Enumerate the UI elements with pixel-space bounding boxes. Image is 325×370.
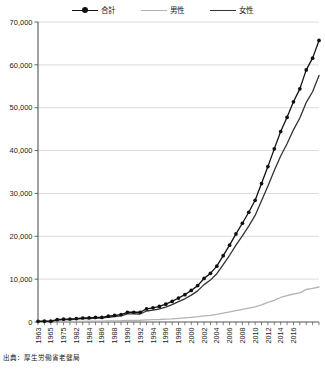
x-axis-tick-label: 2014 bbox=[276, 328, 285, 344]
series-marker-total bbox=[253, 198, 257, 202]
chart-container: 合計 男性 女性 010,00020,00030,00040,00050,000… bbox=[0, 0, 325, 370]
series-marker-total bbox=[157, 305, 161, 309]
x-axis-tick-label: 2004 bbox=[212, 328, 221, 344]
series-marker-total bbox=[132, 310, 136, 314]
y-axis-tick-label: 50,000 bbox=[10, 103, 33, 112]
series-marker-total bbox=[228, 243, 232, 247]
series-marker-total bbox=[74, 317, 78, 321]
series-marker-total bbox=[241, 221, 245, 225]
series-marker-total bbox=[113, 313, 117, 317]
source-note: 出典：厚生労働省老健局 bbox=[3, 352, 80, 362]
series-marker-total bbox=[215, 264, 219, 268]
series-marker-total bbox=[311, 56, 315, 60]
x-axis-tick-label: 2006 bbox=[225, 328, 234, 344]
series-marker-total bbox=[62, 317, 66, 321]
y-axis-tick-label: 70,000 bbox=[10, 18, 33, 27]
x-axis-tick-label: 1994 bbox=[149, 328, 158, 344]
series-marker-total bbox=[234, 232, 238, 236]
series-marker-total bbox=[247, 210, 251, 214]
series-marker-total bbox=[170, 300, 174, 304]
x-axis-tick-label: 1982 bbox=[72, 328, 81, 344]
series-marker-total bbox=[55, 318, 59, 322]
series-marker-total bbox=[221, 254, 225, 258]
series-marker-total bbox=[183, 293, 187, 297]
y-axis-tick-label: 20,000 bbox=[10, 232, 33, 241]
series-marker-total bbox=[260, 182, 264, 186]
series-marker-total bbox=[196, 284, 200, 288]
y-axis-tick-label: 0 bbox=[28, 318, 32, 327]
x-axis-tick-label: 2002 bbox=[200, 328, 209, 344]
series-marker-total bbox=[317, 39, 321, 43]
x-axis-tick-label: 1992 bbox=[136, 328, 145, 344]
series-marker-total bbox=[49, 319, 53, 323]
y-axis-tick-label: 30,000 bbox=[10, 189, 33, 198]
plot-area: 010,00020,00030,00040,00050,00060,00070,… bbox=[0, 0, 325, 370]
x-axis-tick-label: 1986 bbox=[97, 328, 106, 344]
x-axis-tick-label: 1988 bbox=[110, 328, 119, 344]
x-axis-tick-label: 2010 bbox=[251, 328, 260, 344]
series-marker-total bbox=[189, 289, 193, 293]
series-line-male bbox=[38, 287, 319, 322]
x-axis-tick-label: 1990 bbox=[123, 328, 132, 344]
series-marker-total bbox=[94, 316, 98, 320]
x-axis-tick-label: 2000 bbox=[187, 328, 196, 344]
y-axis-tick-label: 60,000 bbox=[10, 61, 33, 70]
x-axis-tick-label: 2016 bbox=[289, 328, 298, 344]
series-marker-total bbox=[87, 316, 91, 320]
series-marker-total bbox=[272, 147, 276, 151]
x-axis-tick-label: 2008 bbox=[238, 328, 247, 344]
series-marker-total bbox=[292, 100, 296, 104]
series-marker-total bbox=[43, 319, 47, 323]
x-axis-tick-label: 1975 bbox=[59, 328, 68, 344]
series-marker-total bbox=[279, 130, 283, 134]
series-marker-total bbox=[266, 165, 270, 169]
series-marker-total bbox=[68, 317, 72, 321]
x-axis-tick-label: 2012 bbox=[264, 328, 273, 344]
y-axis-tick-label: 40,000 bbox=[10, 146, 33, 155]
series-marker-total bbox=[164, 302, 168, 306]
series-marker-total bbox=[119, 313, 123, 317]
x-axis-tick-label: 1963 bbox=[34, 328, 43, 344]
series-line-female bbox=[38, 75, 319, 321]
series-marker-total bbox=[36, 319, 40, 323]
series-marker-total bbox=[81, 316, 85, 320]
series-marker-total bbox=[126, 310, 130, 314]
series-marker-total bbox=[177, 296, 181, 300]
series-marker-total bbox=[202, 277, 206, 281]
series-marker-total bbox=[151, 306, 155, 310]
series-marker-total bbox=[138, 310, 142, 314]
series-marker-total bbox=[285, 115, 289, 119]
x-axis-tick-label: 1996 bbox=[161, 328, 170, 344]
series-marker-total bbox=[304, 68, 308, 72]
series-marker-total bbox=[106, 314, 110, 318]
series-marker-total bbox=[298, 87, 302, 91]
y-axis-tick-label: 10,000 bbox=[10, 275, 33, 284]
x-axis-tick-label: 1965 bbox=[46, 328, 55, 344]
series-marker-total bbox=[100, 316, 104, 320]
x-axis-tick-label: 1998 bbox=[174, 328, 183, 344]
line-chart-svg: 010,00020,00030,00040,00050,00060,00070,… bbox=[0, 0, 325, 370]
series-marker-total bbox=[145, 307, 149, 311]
x-axis-tick-label: 1984 bbox=[85, 328, 94, 344]
series-marker-total bbox=[209, 272, 213, 276]
